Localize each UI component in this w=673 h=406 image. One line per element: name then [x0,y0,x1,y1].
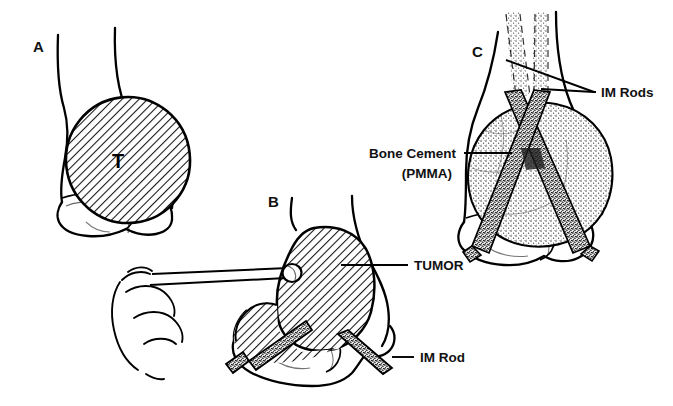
panel-letter-c: C [472,43,483,60]
tumor-callout-label: TUMOR [414,258,464,273]
im-rods-callout-label: IM Rods [601,85,654,100]
panel-b-notch-line [330,348,333,370]
panel-c-condyle-crease [486,246,528,257]
panel-b-group: B TUMOR IM Rod [112,193,465,386]
panel-letter-a: A [33,38,44,55]
panel-a-tumor-letter: T [112,150,124,172]
panel-c-group: C IM Rods Bone Cement (PMMA) [369,10,654,265]
curette-cup-tip [283,264,302,282]
bone-cement-callout-sublabel: (PMMA) [402,166,452,181]
panel-c-rod-tracks [505,10,548,96]
im-rod-callout-label: IM Rod [420,350,465,365]
illustration-canvas: T A [0,0,673,406]
surgical-illustration-figure: T A [0,0,673,406]
bone-cement-callout-label: Bone Cement [369,146,457,161]
panel-a-group: T A [33,28,215,240]
panel-b-im-rod-right [338,330,392,374]
panel-letter-b: B [268,193,279,210]
panel-a-condyle-crease [86,222,110,232]
